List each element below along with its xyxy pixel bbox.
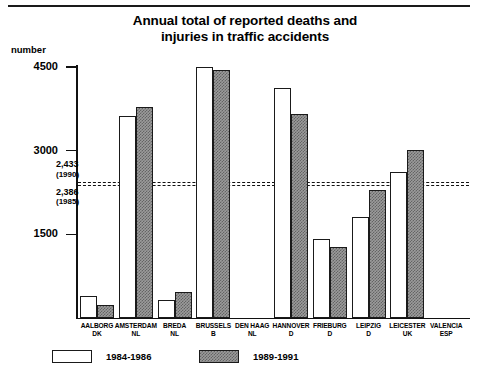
reference-year: (1990) [56,170,79,180]
bar-group-hannover [274,60,308,318]
legend-swatch-series-1 [52,350,92,363]
traffic-accidents-bar-chart: Annual total of reported deaths and inju… [0,0,477,370]
bar-group-brussels [196,60,230,318]
chart-title-line-2: injuries in traffic accidents [60,29,430,45]
x-label-city: LEIPZIG [356,322,381,329]
chart-title-line-1: Annual total of reported deaths and [60,13,430,29]
legend-label-series-2: 1989-1991 [253,351,298,362]
bar-brussels-series-1 [196,67,213,318]
y-tick-3000 [66,150,77,152]
bar-amsterdam-series-2 [136,107,153,318]
x-label-city: VALENCIA [430,322,462,329]
bar-brussels-series-2 [213,70,230,318]
bar-hannover-series-1 [274,88,291,318]
x-label-valencia: VALENCIAESP [420,322,472,338]
bar-breda-series-1 [158,300,175,318]
bar-group-leicester [390,60,424,318]
x-label-city: AALBORG [81,322,114,329]
y-tick-label-3000: 3000 [12,144,58,156]
reference-year: (1985) [56,197,79,207]
bar-frieburg-series-1 [313,239,330,318]
x-label-country: ESP [420,330,472,338]
bar-group-frieburg [313,60,347,318]
bar-leicester-series-2 [407,150,424,318]
bar-frieburg-series-2 [330,247,347,318]
legend-item-1984-1986: 1984-1986 [52,350,151,363]
y-tick-4500 [66,66,77,68]
x-label-city: FRIEBURG [313,322,347,329]
legend-label-series-1: 1984-1986 [106,351,151,362]
bar-group-leipzig [352,60,386,318]
bar-aalborg-series-1 [80,296,97,318]
bar-leipzig-series-2 [369,190,386,318]
bar-breda-series-2 [175,292,192,318]
reference-value: 2,433 [56,159,79,169]
x-label-city: BREDA [163,322,186,329]
reference-annotation-2433: 2,433(1990) [56,160,79,179]
reference-value: 2,386 [56,187,79,197]
reference-annotation-2386: 2,386(1985) [56,188,79,207]
bar-group-valencia [429,60,463,318]
bar-leipzig-series-1 [352,217,369,319]
bar-group-aalborg [80,60,114,318]
y-axis-unit-label: number [11,44,46,55]
bar-hannover-series-2 [291,114,308,318]
bar-amsterdam-series-1 [119,116,136,318]
y-tick-label-1500: 1500 [12,227,58,239]
bar-group-amsterdam [119,60,153,318]
bar-group-den-haag [235,60,269,318]
bar-leicester-series-1 [390,172,407,318]
legend-item-1989-1991: 1989-1991 [199,350,298,363]
y-tick-1500 [66,234,77,236]
bar-group-breda [158,60,192,318]
y-tick-label-4500: 4500 [12,60,58,72]
bar-aalborg-series-2 [97,305,114,318]
header-divider [8,5,470,7]
legend-swatch-series-2 [199,350,239,363]
chart-title: Annual total of reported deaths and inju… [60,13,430,45]
